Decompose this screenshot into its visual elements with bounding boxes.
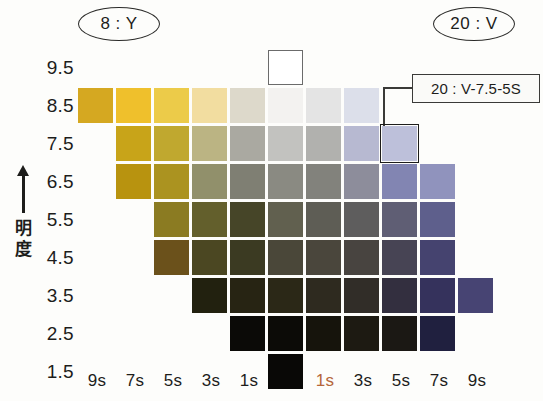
swatch-3.5-5s-right[interactable]	[382, 278, 417, 313]
swatch-1.5-0[interactable]	[268, 354, 303, 389]
swatch-4.5-0[interactable]	[268, 240, 303, 275]
up-arrow-icon	[16, 165, 30, 213]
y-axis-tick-9-5: 9.5	[32, 57, 74, 79]
swatch-7.5-1s-left[interactable]	[230, 126, 265, 161]
swatch-5.5-5s-left[interactable]	[154, 202, 189, 237]
swatch-grid	[78, 50, 498, 395]
swatch-4.5-1s-right[interactable]	[306, 240, 341, 275]
swatch-8.5-9s-left[interactable]	[78, 88, 113, 123]
swatch-4.5-3s-left[interactable]	[192, 240, 227, 275]
swatch-8.5-7s-left[interactable]	[116, 88, 151, 123]
y-axis-tick-7-5: 7.5	[32, 133, 74, 155]
hue-tag-right-label: 20 : V	[450, 14, 497, 34]
swatch-6.5-1s-right[interactable]	[306, 164, 341, 199]
swatch-2.5-3s-right[interactable]	[344, 316, 379, 351]
swatch-8.5-1s-left[interactable]	[230, 88, 265, 123]
swatch-5.5-1s-left[interactable]	[230, 202, 265, 237]
y-axis-tick-3-5: 3.5	[32, 285, 74, 307]
swatch-2.5-5s-right[interactable]	[382, 316, 417, 351]
swatch-3.5-1s-left[interactable]	[230, 278, 265, 313]
hue-tag-right: 20 : V	[433, 7, 515, 41]
swatch-4.5-5s-right[interactable]	[382, 240, 417, 275]
swatch-6.5-1s-left[interactable]	[230, 164, 265, 199]
swatch-4.5-7s-right[interactable]	[420, 240, 455, 275]
swatch-4.5-3s-right[interactable]	[344, 240, 379, 275]
swatch-3.5-1s-right[interactable]	[306, 278, 341, 313]
y-axis-tick-8-5: 8.5	[32, 95, 74, 117]
swatch-5.5-7s-right[interactable]	[420, 202, 455, 237]
y-axis-tick-6-5: 6.5	[32, 171, 74, 193]
swatch-4.5-1s-left[interactable]	[230, 240, 265, 275]
swatch-8.5-0[interactable]	[268, 88, 303, 123]
swatch-8.5-1s-right[interactable]	[306, 88, 341, 123]
color-chart-canvas: 8 : Y 20 : V 20 : V-7.5-5S 明度 9.58.57.56…	[0, 0, 543, 401]
swatch-5.5-3s-right[interactable]	[344, 202, 379, 237]
swatch-6.5-0[interactable]	[268, 164, 303, 199]
swatch-6.5-3s-left[interactable]	[192, 164, 227, 199]
y-axis: 明度 9.58.57.56.55.54.53.52.51.5	[0, 0, 74, 401]
y-axis-tick-2-5: 2.5	[32, 323, 74, 345]
swatch-5.5-1s-right[interactable]	[306, 202, 341, 237]
swatch-7.5-5s-left[interactable]	[154, 126, 189, 161]
swatch-7.5-3s-right[interactable]	[344, 126, 379, 161]
swatch-7.5-5s-right[interactable]	[382, 126, 417, 161]
swatch-9.5-0[interactable]	[268, 50, 303, 85]
swatch-2.5-1s-left[interactable]	[230, 316, 265, 351]
y-axis-tick-4-5: 4.5	[32, 247, 74, 269]
swatch-6.5-5s-right[interactable]	[382, 164, 417, 199]
swatch-3.5-0[interactable]	[268, 278, 303, 313]
swatch-8.5-5s-left[interactable]	[154, 88, 189, 123]
swatch-7.5-3s-left[interactable]	[192, 126, 227, 161]
swatch-3.5-3s-right[interactable]	[344, 278, 379, 313]
swatch-6.5-7s-right[interactable]	[420, 164, 455, 199]
swatch-8.5-3s-left[interactable]	[192, 88, 227, 123]
swatch-6.5-7s-left[interactable]	[116, 164, 151, 199]
swatch-5.5-0[interactable]	[268, 202, 303, 237]
swatch-7.5-7s-left[interactable]	[116, 126, 151, 161]
swatch-7.5-1s-right[interactable]	[306, 126, 341, 161]
swatch-5.5-3s-left[interactable]	[192, 202, 227, 237]
swatch-8.5-3s-right[interactable]	[344, 88, 379, 123]
swatch-6.5-5s-left[interactable]	[154, 164, 189, 199]
swatch-2.5-7s-right[interactable]	[420, 316, 455, 351]
y-axis-tick-5-5: 5.5	[32, 209, 74, 231]
hue-tag-left-label: 8 : Y	[100, 14, 137, 34]
swatch-2.5-0[interactable]	[268, 316, 303, 351]
swatch-4.5-5s-left[interactable]	[154, 240, 189, 275]
swatch-6.5-3s-right[interactable]	[344, 164, 379, 199]
swatch-5.5-5s-right[interactable]	[382, 202, 417, 237]
hue-tag-left: 8 : Y	[78, 7, 160, 41]
swatch-3.5-7s-right[interactable]	[420, 278, 455, 313]
swatch-3.5-3s-left[interactable]	[192, 278, 227, 313]
swatch-7.5-0[interactable]	[268, 126, 303, 161]
swatch-3.5-9s-right[interactable]	[458, 278, 493, 313]
swatch-2.5-1s-right[interactable]	[306, 316, 341, 351]
